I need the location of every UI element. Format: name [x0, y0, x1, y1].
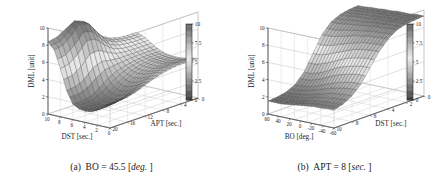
svg-text:2: 2 — [95, 127, 98, 133]
svg-text:8: 8 — [356, 120, 359, 126]
svg-text:8: 8 — [58, 119, 61, 125]
plot-a-canvas: 0246810DML [unit]1086420DST [sec.]048121… — [0, 2, 223, 142]
caption-a: (a) BO = 45.5 [deg. ] — [0, 161, 223, 173]
x-axis-label: BO [deg.] — [285, 133, 314, 141]
svg-text:60: 60 — [264, 116, 270, 122]
svg-text:10: 10 — [195, 21, 201, 27]
caption-a-unit: deg. — [131, 162, 147, 172]
svg-text:-40: -40 — [319, 128, 326, 134]
svg-text:10: 10 — [39, 25, 45, 31]
svg-text:4: 4 — [42, 77, 45, 83]
svg-text:4: 4 — [83, 124, 86, 130]
svg-text:8: 8 — [42, 42, 45, 48]
svg-text:0: 0 — [202, 96, 205, 102]
svg-text:-20: -20 — [308, 125, 315, 131]
svg-text:6: 6 — [374, 113, 377, 119]
svg-text:2: 2 — [42, 94, 45, 100]
surface-plot-a: 0246810DML [unit]1086420DST [sec.]048121… — [0, 2, 223, 142]
svg-text:20: 20 — [112, 126, 118, 132]
panel-b: 0246810DML [unit]6040200-20-40-60BO [deg… — [223, 0, 446, 177]
svg-text:0: 0 — [108, 130, 111, 136]
svg-text:20: 20 — [286, 121, 292, 127]
svg-text:10: 10 — [416, 21, 422, 27]
caption-b-prefix: (b) — [297, 162, 308, 172]
svg-text:4: 4 — [392, 107, 395, 113]
svg-text:40: 40 — [275, 118, 281, 124]
svg-text:5: 5 — [416, 59, 419, 65]
z-axis-label: DML [unit] — [28, 54, 36, 87]
caption-b: (b) APT = 8 [sec. ] — [223, 161, 446, 173]
z-axis-label: DML [unit] — [248, 54, 256, 87]
caption-b-unit: sec. — [351, 162, 366, 172]
y-axis-label: APT [sec.] — [150, 120, 181, 128]
svg-text:2: 2 — [410, 101, 413, 107]
caption-b-suffix: ] — [368, 162, 371, 172]
svg-text:2: 2 — [262, 94, 265, 100]
svg-text:10: 10 — [259, 25, 265, 31]
caption-a-prefix: (a) — [70, 162, 81, 172]
y-axis-label: DST [sec.] — [375, 120, 406, 128]
figure-two-surface-plots: 0246810DML [unit]1086420DST [sec.]048121… — [0, 0, 446, 177]
svg-text:7.5: 7.5 — [195, 40, 202, 46]
svg-text:6: 6 — [262, 59, 265, 65]
z-axis: 0246810DML [unit] — [28, 25, 48, 117]
caption-a-body: BO = 45.5 [ — [86, 162, 131, 172]
svg-text:7.5: 7.5 — [416, 40, 423, 46]
svg-text:8: 8 — [167, 108, 170, 114]
svg-text:4: 4 — [262, 77, 265, 83]
svg-text:16: 16 — [130, 120, 136, 126]
svg-text:0: 0 — [195, 97, 198, 103]
caption-a-suffix: ] — [150, 162, 153, 172]
panel-a: 0246810DML [unit]1086420DST [sec.]048121… — [0, 0, 223, 177]
svg-text:0: 0 — [416, 97, 419, 103]
svg-text:4: 4 — [184, 102, 187, 108]
svg-text:6: 6 — [42, 59, 45, 65]
svg-text:10: 10 — [44, 116, 50, 122]
svg-text:0: 0 — [428, 94, 431, 100]
svg-text:0: 0 — [299, 123, 302, 129]
svg-text:2.5: 2.5 — [195, 78, 202, 84]
surface-plot-b: 0246810DML [unit]6040200-20-40-60BO [deg… — [223, 2, 446, 142]
x-axis-label: DST [sec.] — [61, 133, 92, 141]
svg-text:5: 5 — [195, 59, 198, 65]
svg-text:6: 6 — [71, 122, 74, 128]
svg-text:2.5: 2.5 — [416, 78, 423, 84]
svg-text:10: 10 — [336, 126, 342, 132]
svg-text:12: 12 — [148, 114, 154, 120]
svg-text:8: 8 — [262, 42, 265, 48]
z-axis: 0246810DML [unit] — [248, 25, 268, 117]
caption-b-body: APT = 8 [ — [313, 162, 351, 172]
plot-b-canvas: 0246810DML [unit]6040200-20-40-60BO [deg… — [223, 2, 446, 142]
